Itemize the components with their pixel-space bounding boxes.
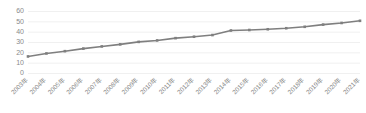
data-point-marker [27, 55, 30, 58]
x-tick-label: 2016年 [249, 75, 270, 96]
x-tick-label: 2019年 [304, 75, 325, 96]
x-tick-label: 2020年 [322, 75, 343, 96]
data-point-marker [64, 50, 67, 53]
chart-canvas: 0102030405060 2003年2004年2005年2006年2007年2… [0, 0, 366, 113]
data-series-layer [27, 20, 362, 58]
y-tick-label: 50 [16, 18, 24, 25]
data-point-marker [322, 23, 325, 26]
data-point-marker [82, 47, 85, 50]
y-tick-label: 30 [16, 38, 24, 45]
x-tick-label: 2015年 [230, 75, 251, 96]
x-tick-label: 2009年 [119, 75, 140, 96]
data-point-marker [266, 28, 269, 31]
x-tick-label: 2017年 [267, 75, 288, 96]
data-point-marker [45, 52, 48, 55]
x-tick-label: 2007年 [83, 75, 104, 96]
data-point-marker [193, 35, 196, 38]
data-point-marker [230, 29, 233, 32]
y-tick-label: 20 [16, 49, 24, 56]
data-point-marker [100, 45, 103, 48]
y-axis-tick-labels: 0102030405060 [16, 7, 24, 76]
gridlines [28, 12, 360, 74]
x-tick-label: 2013年 [193, 75, 214, 96]
x-tick-label: 2008年 [101, 75, 122, 96]
y-tick-label: 0 [20, 69, 24, 76]
data-point-marker [248, 29, 251, 32]
data-point-marker [340, 22, 343, 25]
x-tick-label: 2018年 [285, 75, 306, 96]
x-tick-label: 2012年 [175, 75, 196, 96]
line-chart: 0102030405060 2003年2004年2005年2006年2007年2… [0, 0, 366, 113]
data-point-marker [119, 43, 122, 46]
x-tick-label: 2021年 [341, 75, 362, 96]
x-tick-label: 2004年 [27, 75, 48, 96]
series-line [28, 21, 360, 57]
x-tick-label: 2014年 [212, 75, 233, 96]
y-tick-label: 40 [16, 28, 24, 35]
data-point-marker [174, 37, 177, 40]
chart-plot-area: 0102030405060 2003年2004年2005年2006年2007年2… [0, 0, 366, 113]
x-tick-label: 2006年 [64, 75, 85, 96]
x-tick-label: 2010年 [138, 75, 159, 96]
data-point-marker [211, 34, 214, 37]
y-tick-label: 60 [16, 7, 24, 14]
data-point-marker [359, 20, 362, 23]
x-tick-label: 2011年 [157, 75, 178, 96]
y-tick-label: 10 [16, 59, 24, 66]
x-axis-tick-labels: 2003年2004年2005年2006年2007年2008年2009年2010年… [9, 75, 362, 96]
x-tick-label: 2005年 [46, 75, 67, 96]
data-point-marker [285, 27, 288, 30]
data-point-marker [303, 25, 306, 28]
x-tick-label: 2003年 [9, 75, 30, 96]
data-point-marker [156, 39, 159, 42]
data-point-marker [137, 41, 140, 44]
